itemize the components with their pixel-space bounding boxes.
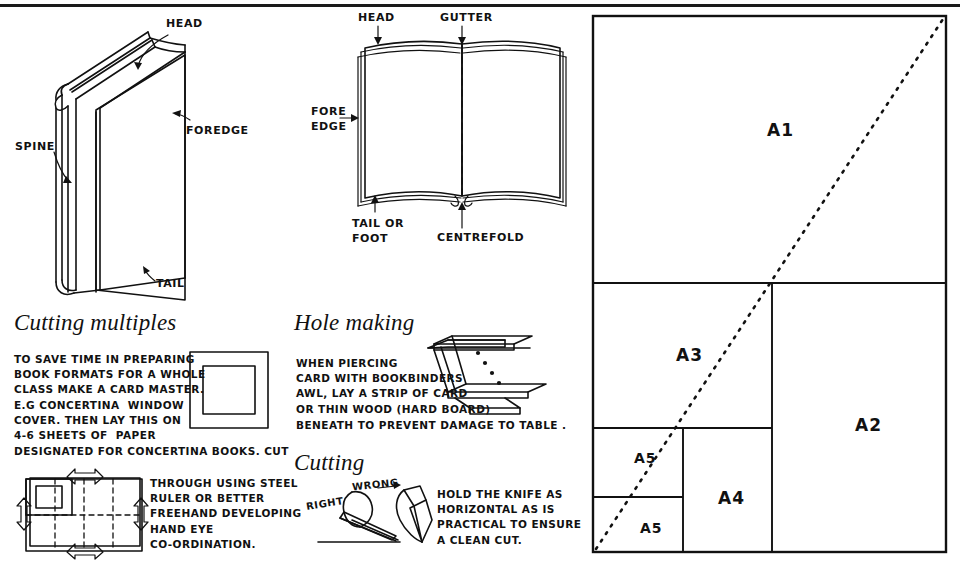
open-book-illustration bbox=[358, 41, 566, 206]
paper-size-label-a2: A2 bbox=[855, 415, 882, 435]
closed-book-leaders bbox=[54, 35, 190, 281]
label-fore-edge-line1: FORE bbox=[311, 106, 346, 118]
label-tail-or: TAIL OR bbox=[352, 218, 404, 230]
label-foot: FOOT bbox=[352, 233, 388, 245]
label-gutter: GUTTER bbox=[440, 12, 493, 24]
top-rule-divider bbox=[0, 4, 960, 7]
paragraph-cutting: HOLD THE KNIFE AS HORIZONTAL AS IS PRACT… bbox=[437, 487, 581, 548]
paragraph-cutting-multiples: TO SAVE TIME IN PREPARING BOOK FORMATS F… bbox=[14, 352, 206, 443]
heading-cutting-multiples: Cutting multiples bbox=[14, 310, 177, 336]
reference-sheet: HEAD FOREDGE SPINE TAIL HEAD GUTTER FORE… bbox=[0, 0, 960, 573]
open-book-leaders bbox=[340, 26, 466, 228]
label-head-closed: HEAD bbox=[166, 18, 203, 30]
paragraph-hole-making: WHEN PIERCING CARD WITH BOOKBINDERS AWL,… bbox=[296, 356, 491, 417]
closed-book-illustration bbox=[55, 32, 185, 300]
label-fore-edge-line2: EDGE bbox=[311, 121, 347, 133]
paragraph-cutting-multiples-right: THROUGH USING STEEL RULER OR BETTER FREE… bbox=[150, 476, 302, 552]
paper-size-label-a5-upper: A5 bbox=[634, 450, 657, 466]
paper-size-label-a4: A4 bbox=[718, 488, 745, 508]
heading-hole-making: Hole making bbox=[294, 310, 414, 336]
label-tail-closed: TAIL bbox=[156, 278, 185, 290]
label-foredge: FOREDGE bbox=[186, 125, 249, 137]
concertina-layout-illustration bbox=[17, 469, 148, 559]
label-wrong: WRONG bbox=[352, 478, 400, 493]
paper-size-label-a3: A3 bbox=[676, 345, 703, 365]
knife-wrong-illustration bbox=[378, 481, 432, 542]
paper-size-label-a5-lower: A5 bbox=[640, 520, 663, 536]
paragraph-cutting-multiples-wide: DESIGNATED FOR CONCERTINA BOOKS. CUT bbox=[14, 444, 289, 459]
heading-cutting: Cutting bbox=[294, 450, 364, 476]
label-right: RIGHT bbox=[305, 496, 344, 512]
paper-size-panel bbox=[593, 16, 946, 552]
label-spine: SPINE bbox=[15, 141, 55, 153]
label-head-open: HEAD bbox=[358, 12, 395, 24]
paragraph-hole-making-wide: BENEATH TO PREVENT DAMAGE TO TABLE . bbox=[296, 418, 566, 433]
paper-size-label-a1: A1 bbox=[767, 120, 794, 140]
label-centrefold: CENTREFOLD bbox=[437, 232, 524, 244]
